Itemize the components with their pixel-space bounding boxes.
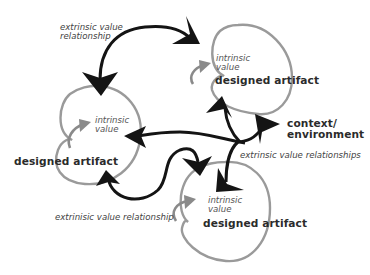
value-relationship-diagram: extrinsic value relationship intrinsic v… <box>0 0 370 275</box>
intrinsic-arrow-top-right <box>191 60 211 84</box>
edge-label-top-left-line2: relationship <box>60 32 123 41</box>
artifact-bottom-intrinsic-label: intrinsic value <box>208 196 242 214</box>
edge-label-top-left: extrinsic value relationship <box>60 23 123 41</box>
context-line2: environment <box>287 129 364 140</box>
context-environment-label: context/ environment <box>287 118 364 140</box>
intrinsic-line2: value <box>208 205 242 214</box>
intrinsic-line2: value <box>216 63 250 72</box>
artifact-bottom-title: designed artifact <box>203 218 307 229</box>
intrinsic-line2: value <box>95 125 129 134</box>
extrinsic-arrow-to-left <box>124 126 245 148</box>
artifact-top-right-intrinsic-label: intrinsic value <box>216 54 250 72</box>
artifact-left-title: designed artifact <box>14 156 118 167</box>
edge-label-right: extrinsic value relationships <box>240 151 361 160</box>
artifact-top-right-title: designed artifact <box>215 75 319 86</box>
edge-label-bottom-left: extrinisic value relationship <box>55 213 174 222</box>
extrinsic-arrow-to-context <box>235 114 280 144</box>
intrinsic-arrow-left <box>69 119 91 148</box>
artifact-left-intrinsic-label: intrinsic value <box>95 116 129 134</box>
